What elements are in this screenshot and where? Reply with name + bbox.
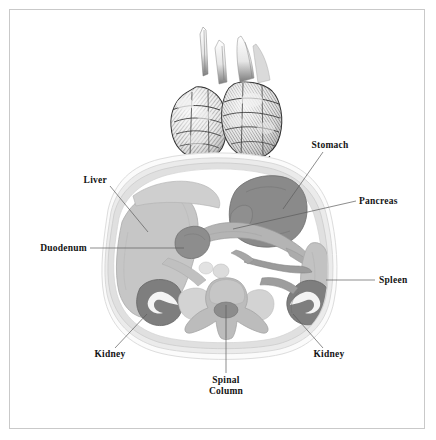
label-liver: Liver bbox=[84, 175, 108, 185]
aorta bbox=[213, 264, 229, 278]
label-kidney-right: Kidney bbox=[313, 349, 344, 359]
label-spinal-column-line2: Column bbox=[209, 386, 244, 396]
inferior-vena-cava bbox=[199, 262, 213, 274]
label-stomach: Stomach bbox=[311, 140, 349, 150]
vertebral-body bbox=[209, 280, 244, 306]
label-spleen: Spleen bbox=[379, 275, 408, 285]
anatomy-illustration: Stomach Pancreas Spleen Liver Duodenum K bbox=[0, 0, 436, 440]
liver-lobe-right bbox=[222, 82, 282, 158]
anterior-liver-engraving bbox=[171, 27, 282, 173]
anatomy-figure: Stomach Pancreas Spleen Liver Duodenum K bbox=[0, 0, 436, 440]
liver-lobe-left bbox=[171, 87, 226, 159]
kidney-left-section bbox=[137, 279, 183, 325]
label-pancreas: Pancreas bbox=[359, 196, 398, 206]
hepatic-vessels bbox=[200, 27, 270, 84]
label-kidney-left: Kidney bbox=[94, 349, 125, 359]
label-duodenum: Duodenum bbox=[40, 243, 87, 253]
callout-spleen[interactable]: Spleen bbox=[326, 275, 408, 285]
label-spinal-column-line1: Spinal bbox=[212, 375, 239, 385]
abdominal-cross-section bbox=[102, 153, 337, 360]
